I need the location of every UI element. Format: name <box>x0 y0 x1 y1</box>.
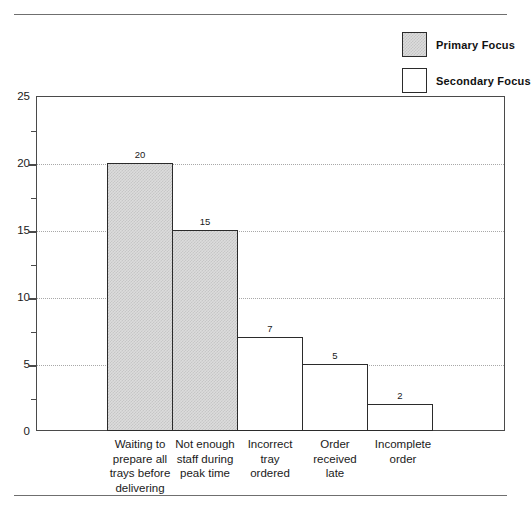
x-label-line: Incomplete <box>358 437 448 452</box>
y-axis-label-20: 20 <box>2 157 30 169</box>
bar-series: 20 15 7 5 2 <box>36 96 505 431</box>
x-label-line: order <box>358 452 448 467</box>
x-label-line: late <box>293 466 377 481</box>
bar-value-label: 15 <box>173 216 237 227</box>
x-axis-labels: Waiting to prepare all trays before deli… <box>36 437 505 497</box>
bar-value-label: 2 <box>368 390 432 401</box>
x-axis-label-incomplete-order: Incomplete order <box>358 437 448 466</box>
bar-incomplete-order[interactable]: 2 <box>367 404 433 431</box>
page-rule-bottom <box>14 495 507 496</box>
bar-incorrect-tray[interactable]: 7 <box>237 337 303 431</box>
y-axis-label-25: 25 <box>2 90 30 102</box>
bar-not-enough-staff[interactable]: 15 <box>172 230 238 431</box>
y-axis-label-10: 10 <box>2 291 30 303</box>
x-label-line: delivering <box>98 481 182 496</box>
y-axis-labels: 0 5 10 15 20 25 <box>0 96 30 431</box>
bar-value-label: 20 <box>108 149 172 160</box>
y-axis-label-0: 0 <box>2 425 30 437</box>
bar-order-received-late[interactable]: 5 <box>302 364 368 431</box>
bar-value-label: 5 <box>303 350 367 361</box>
y-axis-label-15: 15 <box>2 224 30 236</box>
y-axis-label-5: 5 <box>2 358 30 370</box>
bar-waiting-to-prepare[interactable]: 20 <box>107 163 173 431</box>
bar-value-label: 7 <box>238 323 302 334</box>
